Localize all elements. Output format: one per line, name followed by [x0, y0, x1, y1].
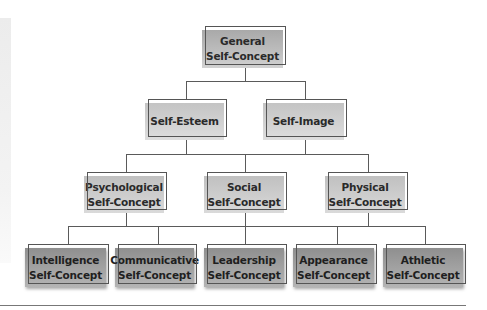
node-intelligence-self-concept: Intelligence Self-Concept	[25, 244, 109, 287]
connector-root-stem	[245, 67, 246, 81]
node-label-line2: Self-Concept	[208, 195, 281, 210]
node-label-line1: Physical	[341, 180, 388, 195]
node-label-line2: Self-Concept	[206, 49, 279, 64]
node-fill: Appearance Self-Concept	[293, 248, 374, 287]
connector-to-social	[245, 154, 246, 172]
node-label-line1: Appearance	[299, 253, 367, 268]
connector-self-esteem-stem	[186, 139, 187, 154]
connector-to-self-esteem	[186, 81, 187, 99]
node-psychological-self-concept: Psychological Self-Concept	[84, 172, 167, 213]
node-general-self-concept: General Self-Concept	[202, 26, 286, 68]
side-margin-strip	[0, 18, 11, 263]
connector-to-athletic	[425, 226, 426, 244]
node-label-line1: General	[220, 34, 265, 49]
connector-physical-stem	[368, 212, 369, 226]
connector-level2-bar	[186, 81, 306, 82]
connector-to-psychological	[126, 154, 127, 172]
connector-social-stem	[245, 212, 246, 226]
node-fill: Social Self-Concept	[204, 176, 284, 213]
node-label: Self-Esteem	[150, 114, 218, 129]
node-fill: Intelligence Self-Concept	[25, 248, 106, 287]
connector-psychological-stem	[126, 212, 127, 226]
node-social-self-concept: Social Self-Concept	[204, 172, 287, 213]
connector-to-self-image	[305, 81, 306, 99]
node-fill: Communicative Self-Concept	[115, 248, 194, 287]
node-communicative-self-concept: Communicative Self-Concept	[115, 244, 197, 287]
connector-to-physical	[368, 154, 369, 172]
node-fill: General Self-Concept	[202, 30, 283, 68]
node-self-esteem: Self-Esteem	[145, 99, 227, 140]
node-fill: Self-Image	[263, 103, 344, 140]
node-athletic-self-concept: Athletic Self-Concept	[383, 244, 466, 287]
connector-to-appearance	[337, 226, 338, 244]
node-self-image: Self-Image	[263, 99, 347, 140]
node-fill: Athletic Self-Concept	[383, 248, 463, 287]
node-label-line1: Communicative	[110, 253, 199, 268]
node-label-line1: Social	[227, 180, 261, 195]
node-label-line2: Self-Concept	[88, 195, 161, 210]
node-label-line1: Athletic	[401, 253, 446, 268]
node-label-line1: Intelligence	[32, 253, 99, 268]
node-appearance-self-concept: Appearance Self-Concept	[293, 244, 377, 287]
node-label-line1: Leadership	[212, 253, 276, 268]
node-label-line1: Psychological	[85, 180, 163, 195]
node-fill: Self-Esteem	[145, 103, 224, 140]
node-label-line2: Self-Concept	[118, 268, 191, 283]
node-fill: Psychological Self-Concept	[84, 176, 164, 213]
node-leadership-self-concept: Leadership Self-Concept	[204, 244, 287, 287]
node-label-line2: Self-Concept	[297, 268, 370, 283]
node-label-line2: Self-Concept	[208, 268, 281, 283]
connector-level4-bar	[68, 226, 426, 227]
node-label-line2: Self-Concept	[387, 268, 460, 283]
node-physical-self-concept: Physical Self-Concept	[325, 172, 408, 213]
connector-to-communicative	[158, 226, 159, 244]
node-fill: Leadership Self-Concept	[204, 248, 284, 287]
node-label: Self-Image	[273, 114, 335, 129]
connector-level3-bar	[126, 154, 369, 155]
bottom-divider	[0, 305, 466, 306]
connector-to-intelligence	[68, 226, 69, 244]
node-fill: Physical Self-Concept	[325, 176, 405, 213]
connector-self-image-stem	[305, 139, 306, 154]
node-label-line2: Self-Concept	[329, 195, 402, 210]
connector-to-leadership	[245, 226, 246, 244]
node-label-line2: Self-Concept	[29, 268, 102, 283]
